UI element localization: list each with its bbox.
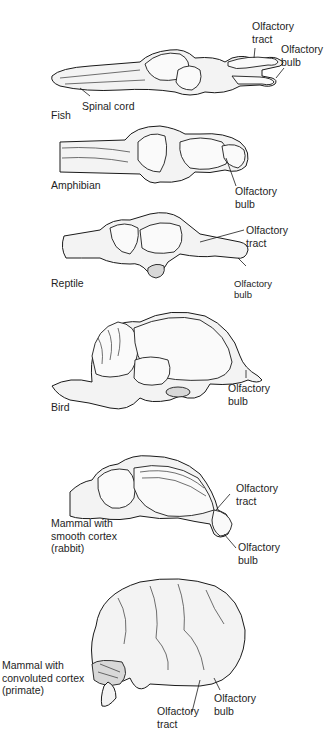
rabbit-olfactory-tract-label: Olfactory tract bbox=[236, 482, 278, 507]
reptile-olfactory-tract-label: Olfactory tract bbox=[246, 224, 288, 249]
amphibian-brain-illustration bbox=[0, 112, 327, 208]
panel-bird: Olfactory bulb Bird bbox=[0, 308, 327, 448]
panel-amphibian: Amphibian Olfactory bulb bbox=[0, 112, 327, 208]
bird-olfactory-bulb-label: Olfactory bulb bbox=[228, 382, 270, 407]
primate-olfactory-bulb-label: Olfactory bulb bbox=[214, 692, 256, 717]
fish-spinal-cord-label: Spinal cord bbox=[82, 100, 135, 113]
rabbit-brain-illustration bbox=[0, 448, 327, 590]
rabbit-species-label: Mammal with smooth cortex (rabbit) bbox=[51, 517, 117, 555]
primate-species-label: Mammal with convoluted cortex (primate) bbox=[2, 659, 84, 697]
panel-rabbit: Olfactory tract Mammal with smooth corte… bbox=[0, 448, 327, 590]
reptile-species-label: Reptile bbox=[51, 277, 84, 290]
rabbit-olfactory-bulb-label: Olfactory bulb bbox=[238, 541, 280, 566]
amphibian-olfactory-bulb-label: Olfactory bulb bbox=[235, 185, 277, 210]
fish-olfactory-bulb-label: Olfactory bulb bbox=[281, 43, 323, 68]
panel-primate: Mammal with convoluted cortex (primate) … bbox=[0, 574, 327, 739]
panel-reptile: Olfactory tract Reptile Olfactory bulb bbox=[0, 208, 327, 308]
reptile-olfactory-bulb-label: Olfactory bulb bbox=[234, 278, 272, 300]
amphibian-species-label: Amphibian bbox=[51, 179, 101, 192]
bird-brain-illustration bbox=[0, 308, 327, 448]
reptile-brain-illustration bbox=[0, 208, 327, 308]
panel-fish: Olfactory tract Olfactory bulb Spinal co… bbox=[0, 0, 327, 112]
bird-species-label: Bird bbox=[51, 401, 70, 414]
fish-brain-illustration bbox=[0, 0, 327, 112]
fish-olfactory-tract-label: Olfactory tract bbox=[252, 20, 294, 45]
primate-olfactory-tract-label: Olfactory tract bbox=[157, 705, 199, 730]
